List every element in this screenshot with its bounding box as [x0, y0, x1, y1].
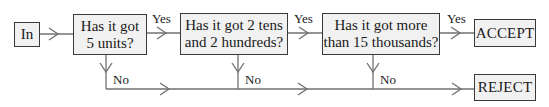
flowchart-diagram: In Has it got 5 units? Has it got 2 tens… [0, 0, 549, 107]
no-label-q2: No [245, 73, 261, 87]
no-label-q1: No [113, 73, 129, 87]
reject-node: REJECT [474, 74, 536, 101]
yes-label-q3: Yes [447, 12, 466, 26]
question-thousands-node: Has it got more than 15 thousands? [322, 13, 440, 55]
input-node: In [14, 22, 40, 47]
yes-label-q2: Yes [294, 12, 313, 26]
no-label-q3: No [380, 73, 396, 87]
question-units-node: Has it got 5 units? [73, 14, 147, 55]
question-tens-hundreds-node: Has it got 2 tens and 2 hundreds? [180, 13, 288, 55]
accept-node: ACCEPT [474, 19, 536, 47]
yes-label-q1: Yes [152, 12, 171, 26]
